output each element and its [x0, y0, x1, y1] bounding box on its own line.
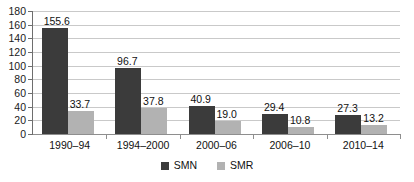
bar-value-label: 19.0 — [217, 109, 237, 120]
bar-smr-3 — [288, 127, 314, 134]
legend-swatch-icon — [217, 162, 225, 170]
bar-smn-4 — [335, 115, 361, 134]
y-axis-tick-label: 140 — [0, 33, 26, 43]
y-axis-tick-label: 80 — [0, 74, 26, 84]
bar-chart: 020406080100120140160180 155.633.796.737… — [0, 0, 414, 182]
bar-smn-3 — [262, 114, 288, 134]
bar-value-label: 40.9 — [191, 94, 211, 105]
y-axis-tick-label: 180 — [0, 6, 26, 16]
legend-item-smr: SMR — [217, 160, 253, 171]
bar-smr-0 — [68, 111, 94, 134]
legend-item-smn: SMN — [161, 160, 197, 171]
y-axis-tick-label: 120 — [0, 47, 26, 57]
bar-smr-1 — [141, 108, 167, 134]
x-axis-tick — [400, 134, 401, 139]
bar-smn-0 — [42, 28, 68, 134]
y-axis-tick-label: 100 — [0, 61, 26, 71]
bar-value-label: 13.2 — [363, 113, 383, 124]
bar-value-label: 29.4 — [264, 102, 284, 113]
bar-value-label: 155.6 — [44, 16, 70, 27]
bar-smn-2 — [189, 106, 215, 134]
bar-value-label: 10.8 — [290, 115, 310, 126]
x-axis-category-label: 1990–94 — [33, 139, 106, 151]
x-axis-category-label: 1994–2000 — [106, 139, 179, 151]
gridline — [33, 134, 400, 135]
y-axis-tick-label: 0 — [0, 129, 26, 139]
bar-value-label: 96.7 — [117, 56, 137, 67]
y-axis-tick-label: 40 — [0, 102, 26, 112]
x-axis-category-label: 2010–14 — [327, 139, 400, 151]
bar-value-label: 27.3 — [337, 103, 357, 114]
bar-smn-1 — [115, 68, 141, 134]
legend-label: SMR — [230, 160, 253, 171]
y-axis-tick-label: 160 — [0, 20, 26, 30]
bar-value-label: 37.8 — [143, 96, 163, 107]
x-axis-category-label: 2006–10 — [253, 139, 326, 151]
x-axis-category-label: 2000–06 — [180, 139, 253, 151]
legend-swatch-icon — [161, 162, 169, 170]
y-axis-tick-label: 60 — [0, 88, 26, 98]
legend-label: SMN — [174, 160, 197, 171]
legend: SMNSMR — [0, 160, 414, 171]
bar-value-label: 33.7 — [70, 99, 90, 110]
y-axis-tick-label: 20 — [0, 115, 26, 125]
bar-smr-2 — [215, 121, 241, 134]
bar-smr-4 — [361, 125, 387, 134]
